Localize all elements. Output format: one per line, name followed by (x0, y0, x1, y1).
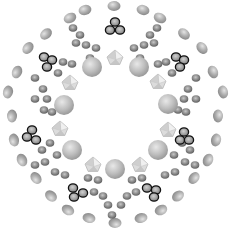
bridging-atom-sphere (153, 24, 162, 32)
trimer-atom-sphere (22, 133, 31, 141)
octahedron-polyhedron-icon (85, 157, 101, 171)
bridging-atom-sphere (170, 151, 179, 159)
outer-atom-sphere (176, 26, 192, 42)
bridging-atom-sphere (61, 171, 70, 179)
trimer-atom-sphere (175, 136, 184, 144)
outer-atom-sphere (194, 40, 210, 56)
bridging-atom-sphere (182, 108, 191, 116)
octahedron-polyhedron-icon (150, 74, 166, 88)
outer-atom-sphere (217, 85, 230, 100)
outer-atom-sphere (81, 212, 96, 225)
bridging-atom-sphere (31, 74, 40, 82)
bridging-atom-sphere (140, 41, 149, 49)
outer-atom-sphere (210, 133, 223, 148)
outer-atom-layer (2, 1, 230, 228)
bridging-atom-sphere (92, 44, 101, 52)
octahedron-polyhedron-icon (160, 122, 176, 136)
large-metal-sphere (62, 140, 82, 160)
octahedron-polyhedron-icon (107, 50, 123, 64)
trimer-atom-sphere (110, 18, 119, 26)
outer-atom-sphere (201, 152, 216, 168)
bridging-atom-sphere (146, 31, 155, 39)
bridging-atom-sphere (59, 58, 68, 66)
bridging-atom-sphere (40, 106, 49, 114)
outlined-trimer-cluster (68, 184, 87, 201)
bridging-atom-sphere (38, 146, 47, 154)
bridging-atom-sphere (186, 146, 195, 154)
large-metal-sphere (148, 140, 168, 160)
outer-atom-sphere (28, 170, 44, 186)
large-metal-sphere (54, 95, 74, 115)
trimer-atom-sphere (184, 136, 193, 144)
trimer-atom-sphere (175, 63, 184, 71)
outer-atom-sphere (107, 1, 120, 11)
bridging-atom-sphere (90, 188, 99, 196)
bridging-atom-sphere (191, 161, 200, 169)
bridging-atom-sphere (123, 192, 132, 200)
bridging-atom-sphere (51, 168, 60, 176)
bridging-atom-sphere (72, 39, 81, 47)
bridging-atom-sphere (53, 151, 62, 159)
bridging-atom-sphere (54, 69, 63, 77)
bridging-atom-sphere (41, 158, 50, 166)
octahedron-polyhedron-icon (132, 157, 148, 171)
trimer-atom-sphere (31, 136, 40, 144)
bridging-atom-sphere (31, 161, 40, 169)
outer-atom-sphere (10, 64, 24, 80)
molecular-cluster-figure: Ball-and-stick style rendering of a ring… (0, 0, 231, 233)
bridging-atom-sphere (31, 95, 40, 103)
large-metal-sphere (158, 94, 178, 114)
outer-atom-sphere (135, 4, 150, 17)
trimer-atom-sphere (142, 184, 151, 192)
outlined-trimer-cluster (22, 126, 40, 144)
bridging-atom-sphere (181, 158, 190, 166)
bridging-atom-sphere (68, 60, 77, 68)
outer-atom-sphere (62, 11, 78, 26)
outlined-trimer-cluster (142, 184, 160, 201)
bridging-atom-sphere (94, 176, 103, 184)
large-metal-sphere (82, 57, 102, 77)
trimer-atom-sphere (115, 26, 124, 34)
bridging-atom-sphere (184, 85, 193, 93)
bridging-atom-sphere (76, 31, 85, 39)
outer-atom-sphere (170, 188, 186, 204)
bridging-atom-sphere (108, 211, 117, 219)
cluster-diagram (0, 0, 231, 233)
bridging-atom-sphere (150, 39, 159, 47)
trimer-atom-sphere (69, 193, 78, 201)
outer-atom-sphere (206, 64, 220, 80)
octahedron-polyhedron-icon (62, 75, 78, 89)
large-metal-sphere (105, 159, 125, 179)
outer-atom-sphere (153, 203, 169, 218)
trimer-atom-sphere (42, 63, 51, 71)
outer-atom-sphere (213, 110, 223, 123)
trimer-atom-sphere (68, 184, 77, 192)
outer-atom-sphere (77, 3, 92, 16)
outlined-trimer-cluster (175, 128, 193, 144)
trimer-atom-sphere (78, 189, 87, 197)
outlined-trimer-cluster (39, 53, 56, 71)
outer-atom-sphere (60, 203, 76, 218)
outer-atom-sphere (15, 152, 30, 168)
bridging-atom-sphere (43, 95, 52, 103)
bridging-atom-sphere (39, 85, 48, 93)
large-metal-sphere (129, 57, 149, 77)
outer-atom-sphere (38, 26, 54, 42)
bridging-atom-sphere (168, 69, 177, 77)
outer-atom-sphere (43, 188, 59, 204)
bridging-atom-sphere (132, 188, 141, 196)
bridging-atom-sphere (46, 139, 55, 147)
bridging-atom-sphere (104, 201, 113, 209)
outer-atom-sphere (8, 133, 21, 148)
bridging-atom-sphere (154, 60, 163, 68)
outer-atom-sphere (20, 40, 36, 56)
bridging-atom-sphere (130, 44, 139, 52)
bridging-atom-sphere (117, 201, 126, 209)
bridging-atom-sphere (161, 171, 170, 179)
bridging-atom-sphere (69, 24, 78, 32)
outer-atom-sphere (109, 218, 122, 228)
bridging-atom-sphere (82, 41, 91, 49)
outlined-trimer-cluster (171, 53, 188, 71)
octahedron-polyhedron-icon (52, 121, 68, 135)
bridging-atom-sphere (128, 176, 137, 184)
